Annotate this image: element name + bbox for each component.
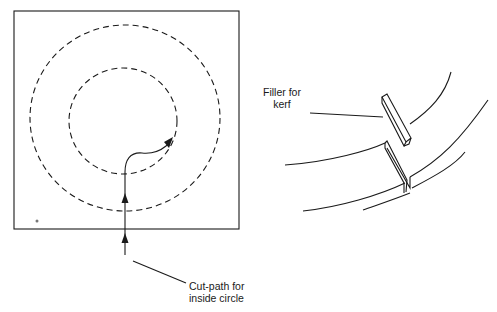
cut-path-label: Cut-path for inside circle	[189, 280, 244, 304]
cut-path-label-line2: inside circle	[189, 292, 244, 304]
filler-leader-line	[310, 113, 383, 117]
filler-label: Filler for kerf	[263, 86, 301, 110]
left-panel	[14, 11, 239, 283]
workpiece-square	[14, 11, 239, 229]
arrow-up-icon	[122, 193, 129, 203]
middle-arc-right	[410, 100, 488, 177]
outer-arc-left	[285, 143, 385, 165]
filler-label-line2: kerf	[263, 98, 301, 110]
speck-mark	[36, 220, 39, 223]
cut-path-leader-line	[133, 261, 186, 283]
arrow-up-icon	[122, 233, 129, 243]
filler-block-face	[382, 94, 411, 142]
diagram-canvas	[0, 0, 497, 312]
kerf-edge-right	[387, 148, 410, 188]
right-panel	[285, 72, 488, 211]
outer-arc-right	[410, 72, 451, 124]
filler-label-line1: Filler for	[263, 86, 301, 98]
cut-path-line	[125, 139, 172, 255]
cut-path-label-line1: Cut-path for	[189, 280, 244, 292]
middle-arc-left	[303, 183, 405, 211]
lower-arc-left	[363, 193, 410, 210]
inner-dashed-circle	[69, 68, 177, 174]
